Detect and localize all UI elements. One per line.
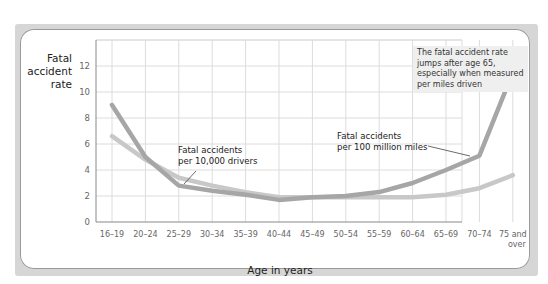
svg-text:over: over bbox=[508, 240, 527, 249]
annotation-line: Fatal accidents bbox=[337, 131, 427, 142]
svg-text:35–39: 35–39 bbox=[233, 230, 257, 239]
svg-text:50–54: 50–54 bbox=[334, 230, 358, 239]
svg-text:6: 6 bbox=[85, 139, 90, 149]
svg-text:20–24: 20–24 bbox=[133, 230, 157, 239]
annotation-box: The fatal accident rate jumps after age … bbox=[413, 46, 528, 92]
line-chart: 02468101216–1920–2425–2930–3435–3940–444… bbox=[0, 0, 548, 284]
svg-text:60–64: 60–64 bbox=[400, 230, 424, 239]
svg-text:40–44: 40–44 bbox=[267, 230, 291, 239]
svg-text:16–19: 16–19 bbox=[100, 230, 124, 239]
svg-text:0: 0 bbox=[85, 217, 90, 227]
svg-text:12: 12 bbox=[79, 61, 90, 71]
svg-text:25–29: 25–29 bbox=[167, 230, 191, 239]
svg-text:65–69: 65–69 bbox=[434, 230, 458, 239]
annotation-miles: Fatal accidents per 100 million miles bbox=[337, 131, 427, 153]
annotation-drivers: Fatal accidents per 10,000 drivers bbox=[178, 145, 258, 167]
annotation-line: Fatal accidents bbox=[178, 145, 258, 156]
svg-text:75 and: 75 and bbox=[499, 230, 527, 239]
svg-text:30–34: 30–34 bbox=[200, 230, 224, 239]
x-axis-title: Age in years bbox=[200, 264, 360, 276]
annotation-line: per 10,000 drivers bbox=[178, 156, 258, 167]
svg-text:10: 10 bbox=[79, 87, 90, 97]
svg-text:4: 4 bbox=[85, 165, 90, 175]
svg-text:55–59: 55–59 bbox=[367, 230, 391, 239]
annotation-line: per 100 million miles bbox=[337, 142, 427, 153]
svg-text:8: 8 bbox=[85, 113, 90, 123]
svg-text:45–49: 45–49 bbox=[300, 230, 324, 239]
svg-text:2: 2 bbox=[85, 191, 90, 201]
svg-text:70–74: 70–74 bbox=[467, 230, 491, 239]
